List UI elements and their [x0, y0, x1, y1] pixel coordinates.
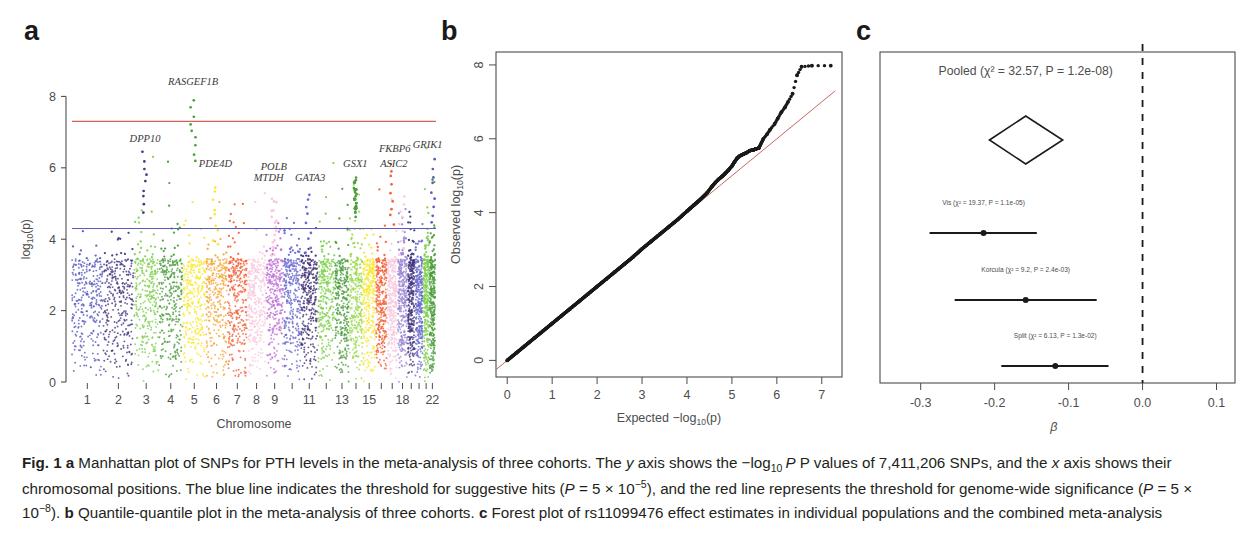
y-tick-label: 6: [49, 161, 56, 175]
caption-text-a-2: axis shows the −log: [634, 454, 771, 471]
panel-c-forest: c Pooled (χ² = 32.57, P = 1.2e-08)Vis (χ…: [852, 0, 1251, 445]
forest-x-tick-label: 0.0: [1134, 396, 1151, 410]
x-tick-label-chr5: 5: [191, 393, 198, 407]
forest-x-axis-label: β: [1049, 420, 1057, 434]
caption-text-a-3: P values of 7,411,206 SNPs, and the: [796, 454, 1052, 471]
forest-x-tick-label: -0.3: [910, 396, 932, 410]
x-tick-label-chr1: 1: [84, 393, 91, 407]
x-tick-label-chr13: 13: [335, 393, 349, 407]
study-label: Vis (χ² = 19.37, P = 1.1e-05): [942, 199, 1025, 207]
gene-label-DPP10: DPP10: [129, 133, 162, 144]
gene-labels: GRIK1DPP10RASGEF1BPDE4DPOLBMTDHGATA3GSX1…: [129, 76, 443, 183]
gene-label-POLB: POLB: [260, 161, 288, 172]
panel-a-letter: a: [24, 18, 39, 45]
x-tick-label-chr8: 8: [253, 393, 260, 407]
forest-x-tick-label: 0.1: [1208, 396, 1225, 410]
qq-chart: 0123456702468Expected −log10(p)Observed …: [438, 0, 858, 445]
qq-y-axis: 02468: [472, 61, 496, 363]
qq-y-tick-label: 2: [472, 283, 486, 290]
effect-estimate-marker: [981, 230, 987, 236]
caption-figure-label: Fig. 1: [22, 454, 62, 471]
manhattan-y-axis: 02468: [49, 90, 66, 390]
x-tick-label-chr15: 15: [362, 393, 376, 407]
qq-x-tick-label: 6: [773, 388, 780, 402]
caption-sup-minus5: −5: [635, 478, 647, 490]
qq-x-tick-label: 3: [639, 388, 646, 402]
forest-x-tick-label: -0.1: [1058, 396, 1080, 410]
caption-sup-minus8: −8: [39, 502, 51, 514]
manhattan-x-axis: 1234567891113151822: [84, 383, 440, 407]
manhattan-x-axis-label: Chromosome: [216, 417, 291, 431]
panel-b-qq: b 0123456702468Expected −log10(p)Observe…: [438, 0, 858, 445]
forest-x-tick-label: -0.2: [984, 396, 1006, 410]
panel-a-manhattan: a 02468log10(p)1234567891113151822Chromo…: [0, 0, 445, 445]
caption-text-a-8: ).: [51, 504, 65, 521]
qq-y-tick-label: 6: [472, 135, 486, 142]
qq-x-tick-label: 7: [818, 388, 825, 402]
y-tick-label: 2: [49, 304, 56, 318]
qq-x-tick-label: 0: [504, 388, 511, 402]
forest-row: Vis (χ² = 19.37, P = 1.1e-05): [930, 199, 1037, 236]
qq-x-tick-label: 4: [683, 388, 690, 402]
forest-chart: Pooled (χ² = 32.57, P = 1.2e-08)Vis (χ² …: [852, 0, 1251, 445]
qq-x-axis-label: Expected −log10(p): [617, 411, 721, 427]
gene-label-MTDH: MTDH: [253, 172, 285, 183]
y-tick-label: 4: [49, 233, 56, 247]
x-tick-label-chr7: 7: [234, 393, 241, 407]
study-label: Korcula (χ² = 9.2, P = 2.4e-03): [981, 266, 1070, 274]
x-tick-label-chr6: 6: [213, 393, 220, 407]
y-tick-label: 0: [49, 376, 56, 390]
forest-row: Korcula (χ² = 9.2, P = 2.4e-03): [955, 266, 1097, 303]
caption-italic-p2: P: [565, 480, 575, 497]
qq-y-tick-label: 4: [472, 209, 486, 216]
svg-text:log10(p): log10(p): [19, 219, 35, 259]
qq-x-tick-label: 5: [728, 388, 735, 402]
panel-c-letter: c: [856, 18, 871, 45]
x-tick-label-chr3: 3: [143, 393, 150, 407]
manhattan-body: [71, 99, 436, 383]
caption-italic-p1: P: [785, 454, 795, 471]
manhattan-chart: 02468log10(p)1234567891113151822Chromoso…: [0, 0, 445, 445]
gene-peak-points: [141, 99, 436, 264]
figure-1: a 02468log10(p)1234567891113151822Chromo…: [0, 0, 1251, 559]
x-tick-label-chr18: 18: [396, 393, 410, 407]
gene-label-GATA3: GATA3: [295, 172, 325, 183]
forest-row: Split (χ² = 6.13, P = 1.3e-02): [1001, 332, 1108, 369]
figure-caption: Fig. 1a Manhattan plot of SNPs for PTH l…: [22, 452, 1234, 525]
qq-x-tick-label: 2: [594, 388, 601, 402]
qq-y-axis-label: Observed log10(p): [449, 165, 465, 264]
qq-points: [505, 64, 832, 363]
caption-text-a-6: ), and the red line represents the thres…: [647, 480, 1143, 497]
x-tick-label-chr4: 4: [167, 393, 174, 407]
qq-y-tick-label: 8: [472, 61, 486, 68]
forest-x-axis: -0.3-0.2-0.10.00.1: [910, 383, 1225, 410]
x-tick-label-chr11: 11: [303, 393, 316, 407]
pooled-label: Pooled (χ² = 32.57, P = 1.2e-08): [939, 64, 1113, 78]
gene-label-PDE4D: PDE4D: [198, 158, 233, 169]
y-tick-label: 8: [49, 90, 56, 104]
qq-y-tick-label: 0: [472, 357, 486, 364]
qq-x-tick-label: 1: [549, 388, 556, 402]
pooled-diamond: [989, 116, 1062, 164]
x-tick-label-chr2: 2: [115, 393, 122, 407]
gene-label-GSX1: GSX1: [343, 158, 368, 169]
study-label: Split (χ² = 6.13, P = 1.3e-02): [1014, 332, 1097, 340]
qq-x-axis: 01234567: [504, 377, 826, 402]
manhattan-y-axis-label: log10(p): [19, 219, 35, 259]
gene-label-ASIC2: ASIC2: [379, 158, 408, 169]
caption-sub-10a: 10: [771, 462, 783, 474]
effect-estimate-marker: [1052, 363, 1058, 369]
caption-italic-p3: P: [1143, 480, 1153, 497]
caption-text-c: Forest plot of rs11099476 effect estimat…: [487, 504, 1162, 521]
panel-b-letter: b: [441, 18, 458, 45]
svg-text:Observed log10(p): Observed log10(p): [449, 165, 465, 264]
caption-letter-a: a: [66, 454, 74, 471]
x-tick-label-chr9: 9: [271, 393, 278, 407]
effect-estimate-marker: [1023, 297, 1029, 303]
gene-label-FKBP6: FKBP6: [378, 143, 411, 154]
caption-text-b: Quantile-quantile plot in the meta-analy…: [74, 504, 479, 521]
caption-italic-y: y: [626, 454, 634, 471]
caption-text-a-1: Manhattan plot of SNPs for PTH levels in…: [74, 454, 626, 471]
caption-text-a-5: = 5 × 10: [575, 480, 635, 497]
gene-label-RASGEF1B: RASGEF1B: [167, 76, 219, 87]
